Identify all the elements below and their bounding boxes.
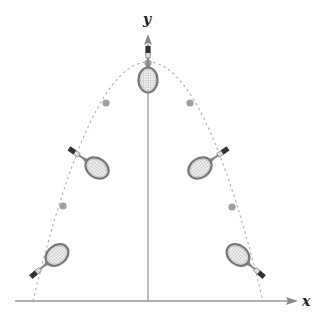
trajectory-point [186,99,193,106]
parabola-diagram: x y [0,0,319,317]
racket-icon [64,141,113,183]
y-axis-arrow-icon [144,34,152,45]
racket-icon [139,46,158,93]
trajectory-point [228,203,235,210]
y-axis-label: y [142,11,152,27]
trajectory-point [102,99,109,106]
racket-icon [25,240,73,284]
racket-icon [222,240,270,284]
x-axis-label: x [301,293,311,309]
trajectory-point [59,202,66,209]
racket-icon [184,141,233,183]
